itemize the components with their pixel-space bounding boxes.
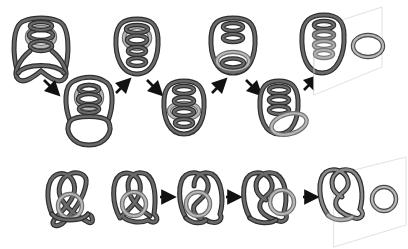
knot-diagram <box>208 15 258 77</box>
arrow-top-4 <box>210 78 228 96</box>
arrow-bottom-1 <box>159 192 175 202</box>
top-stage-5 <box>208 15 258 77</box>
knot-diagram <box>113 16 161 78</box>
knot-diagram <box>44 170 96 228</box>
top-stage-2 <box>62 75 116 147</box>
bottom-stage-plane <box>316 155 408 249</box>
top-stage-3 <box>113 16 161 78</box>
bottom-stage-3 <box>176 170 226 228</box>
knot-diagram <box>110 170 160 228</box>
knot-diagram <box>240 170 300 228</box>
knot-diagram <box>176 170 226 228</box>
top-stage-plane <box>300 5 390 100</box>
knot-diagram <box>161 78 207 138</box>
bottom-stage-2 <box>110 170 160 228</box>
arrow-top-2 <box>114 78 132 96</box>
arrow-icon <box>225 192 241 202</box>
arrow-bottom-2 <box>225 192 241 202</box>
bottom-stage-1 <box>44 170 96 228</box>
arrow-icon <box>210 78 228 96</box>
arrow-icon <box>42 78 60 96</box>
arrow-icon <box>114 78 132 96</box>
knot-diagram <box>62 75 116 147</box>
bottom-stage-4 <box>240 170 300 228</box>
top-stage-4 <box>161 78 207 138</box>
knot-diagram-with-plane <box>316 155 408 249</box>
arrow-top-1 <box>42 78 60 96</box>
knot-diagram-with-plane <box>300 5 390 100</box>
arrow-icon <box>159 192 175 202</box>
